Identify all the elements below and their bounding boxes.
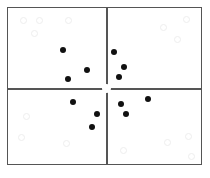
data-dot: [111, 49, 117, 55]
faint-mark: [174, 36, 181, 43]
faint-mark: [23, 113, 30, 120]
faint-mark: [120, 147, 127, 154]
data-dot: [118, 101, 124, 107]
faint-mark: [185, 133, 192, 140]
data-dot: [94, 111, 100, 117]
data-dot: [70, 99, 76, 105]
data-dot: [123, 111, 129, 117]
faint-mark: [18, 134, 25, 141]
faint-mark: [63, 140, 70, 147]
data-dot: [116, 74, 122, 80]
faint-mark: [164, 139, 171, 146]
faint-mark: [183, 16, 190, 23]
data-dot: [60, 47, 66, 53]
data-dot: [65, 76, 71, 82]
faint-mark: [160, 24, 167, 31]
faint-mark: [36, 17, 43, 24]
data-dot: [121, 64, 127, 70]
data-dot: [145, 96, 151, 102]
center-marker: [102, 84, 111, 93]
faint-mark: [20, 17, 27, 24]
faint-mark: [65, 17, 72, 24]
faint-mark: [31, 30, 38, 37]
data-dot: [84, 67, 90, 73]
data-dot: [89, 124, 95, 130]
faint-mark: [188, 153, 195, 160]
